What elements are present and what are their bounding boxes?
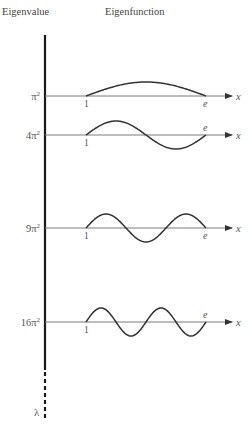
eigen-row-3: 9π2x1e — [26, 214, 241, 242]
tick-label-1: 1 — [84, 325, 89, 335]
eigenvalue-label: π2 — [31, 90, 40, 102]
x-label: x — [235, 317, 241, 328]
eigenvalue-label: 4π2 — [26, 129, 41, 141]
x-label: x — [235, 130, 241, 141]
eigenfunction-curve — [86, 82, 206, 96]
tick-label-e: e — [203, 230, 208, 241]
tick-label-e: e — [203, 122, 208, 133]
eigen-row-1: π2x1e — [31, 82, 241, 109]
tick-label-e: e — [203, 98, 208, 109]
eigenvalue-diagram: λ π2x1e4π2x1e9π2x1e16π2x1e — [0, 0, 252, 433]
tick-label-1: 1 — [84, 138, 89, 148]
eigenvalue-label: 9π2 — [26, 222, 41, 234]
tick-label-1: 1 — [84, 231, 89, 241]
eigen-row-2: 4π2x1e — [26, 121, 241, 149]
eigenvalue-label: 16π2 — [21, 316, 41, 328]
lambda-label: λ — [34, 406, 40, 418]
tick-label-1: 1 — [84, 99, 89, 109]
tick-label-e: e — [203, 309, 208, 320]
eigen-row-4: 16π2x1e — [21, 308, 241, 336]
x-label: x — [235, 223, 241, 234]
x-label: x — [235, 91, 241, 102]
